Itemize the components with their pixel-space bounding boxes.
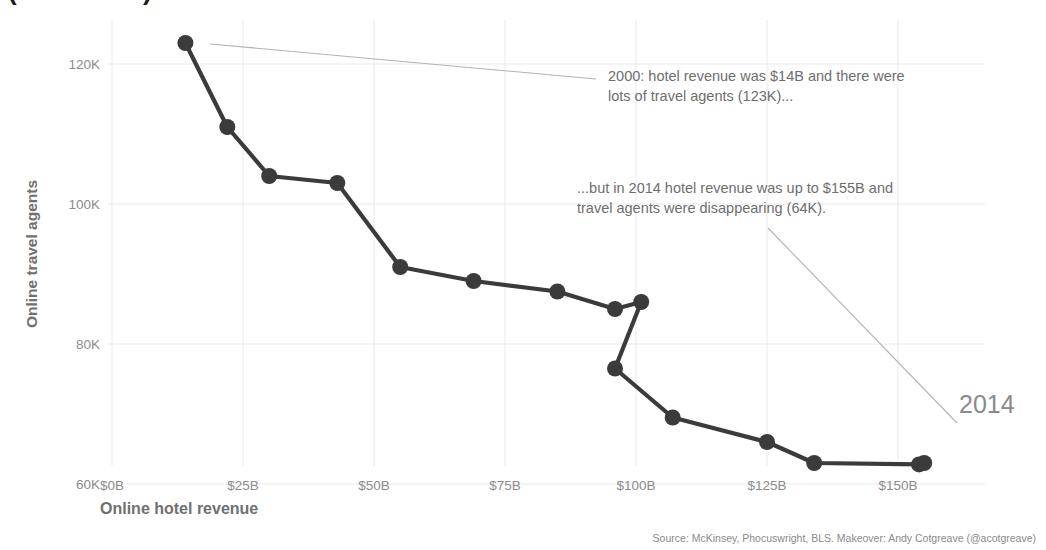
data-point-2010[interactable] — [665, 410, 681, 426]
data-point-label-2014: 2014 — [959, 390, 1015, 419]
data-point-2008[interactable] — [633, 294, 649, 310]
x-tick-$75B: $75B — [489, 478, 521, 493]
source-credit: Source: McKinsey, Phocuswright, BLS. Mak… — [653, 532, 1036, 544]
x-axis-title: Online hotel revenue — [100, 500, 258, 518]
chart-container: (2000-2014) 60K80K100K120K $0B$25B$50B$7… — [0, 0, 1046, 550]
y-tick-100K: 100K — [68, 197, 100, 212]
x-tick-$125B: $125B — [747, 478, 786, 493]
series-line — [185, 43, 924, 464]
data-point-2004[interactable] — [392, 259, 408, 275]
x-tick-$150B: $150B — [878, 478, 917, 493]
annotation-2000: 2000: hotel revenue was $14B and there w… — [608, 66, 968, 106]
data-point-2001[interactable] — [219, 119, 235, 135]
gridlines-horizontal — [108, 64, 985, 484]
data-point-2009[interactable] — [607, 361, 623, 377]
data-point-2014[interactable] — [916, 455, 932, 471]
data-point-2000[interactable] — [177, 35, 193, 51]
y-tick-80K: 80K — [76, 337, 100, 352]
data-point-2002[interactable] — [261, 168, 277, 184]
annotation-2014: ...but in 2014 hotel revenue was up to $… — [577, 178, 957, 218]
data-point-2012[interactable] — [806, 455, 822, 471]
data-point-2011[interactable] — [759, 434, 775, 450]
x-tick-$25B: $25B — [227, 478, 259, 493]
y-tick-60K: 60K — [76, 477, 100, 492]
y-axis-title: Online travel agents — [23, 159, 41, 349]
data-point-2007[interactable] — [607, 301, 623, 317]
data-point-2003[interactable] — [329, 175, 345, 191]
data-point-2006[interactable] — [549, 284, 565, 300]
x-tick-$0B: $0B — [100, 478, 124, 493]
data-point-2005[interactable] — [466, 273, 482, 289]
x-tick-$100B: $100B — [616, 478, 655, 493]
y-tick-120K: 120K — [68, 57, 100, 72]
x-tick-$50B: $50B — [358, 478, 390, 493]
